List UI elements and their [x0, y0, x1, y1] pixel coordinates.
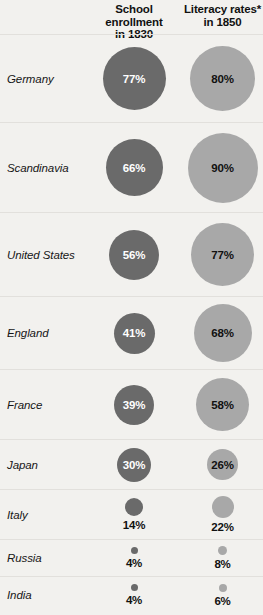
cell-enroll: 41%: [86, 297, 182, 369]
cell-lit: 6%: [182, 577, 263, 613]
bubble-value: 41%: [123, 327, 145, 339]
cell-lit: 26%: [182, 440, 263, 489]
bubble-value: 8%: [214, 558, 230, 570]
bubble-value: 22%: [211, 521, 233, 533]
cell-enroll: 14%: [86, 490, 182, 539]
bubble-enroll[interactable]: 77%: [103, 47, 166, 110]
row-label-russia: Russia: [0, 552, 86, 564]
cell-lit: 90%: [182, 123, 263, 212]
bubble-lit[interactable]: 26%: [207, 449, 238, 480]
row-label-germany: Germany: [0, 73, 86, 85]
header-label-spacer: [0, 3, 86, 34]
row-label-england: England: [0, 327, 86, 339]
cell-enroll: 4%: [86, 577, 182, 613]
bubble-value: 68%: [211, 327, 233, 339]
bubble-lit[interactable]: [212, 496, 234, 518]
bubble-lit[interactable]: 80%: [190, 46, 255, 111]
bubble-enroll[interactable]: [131, 584, 138, 591]
bubble-lit[interactable]: 58%: [196, 378, 249, 431]
bubble-enroll[interactable]: 41%: [114, 313, 155, 354]
bubble-value: 90%: [211, 162, 233, 174]
bubble-enroll[interactable]: [125, 498, 143, 516]
row-label-scandinavia: Scandinavia: [0, 162, 86, 174]
bubble-value: 58%: [211, 399, 233, 411]
row-label-japan: Japan: [0, 459, 86, 471]
cell-enroll: 77%: [86, 35, 182, 122]
bubble-chart: School enrollment in 1830 Literacy rates…: [0, 0, 263, 615]
bubble-value: 26%: [211, 459, 233, 471]
bubble-lit[interactable]: 68%: [194, 304, 252, 362]
chart-header: School enrollment in 1830 Literacy rates…: [0, 0, 263, 34]
chart-row: Italy14%22%: [0, 489, 263, 539]
chart-row: India4%6%: [0, 576, 263, 613]
bubble-value: 14%: [123, 519, 145, 531]
bubble-value: 56%: [123, 249, 145, 261]
column-header-literacy: Literacy rates* in 1850: [182, 3, 263, 34]
bubble-enroll[interactable]: [131, 547, 138, 554]
bubble-lit[interactable]: [218, 546, 227, 555]
bubble-value: 77%: [123, 73, 145, 85]
bubble-enroll[interactable]: 56%: [109, 230, 159, 280]
bubble-value: 80%: [211, 73, 233, 85]
column-header-literacy-line2: in 1850: [182, 16, 263, 29]
bubble-value: 6%: [214, 595, 230, 607]
bubble-lit[interactable]: 90%: [188, 133, 258, 203]
cell-enroll: 56%: [86, 213, 182, 296]
column-header-literacy-line1: Literacy rates*: [184, 3, 261, 15]
bubble-enroll[interactable]: 39%: [114, 385, 154, 425]
chart-row: Germany77%80%: [0, 34, 263, 122]
cell-lit: 58%: [182, 370, 263, 439]
cell-lit: 77%: [182, 213, 263, 296]
cell-lit: 22%: [182, 490, 263, 539]
chart-row: Russia4%8%: [0, 539, 263, 576]
cell-enroll: 4%: [86, 540, 182, 576]
bubble-lit[interactable]: 77%: [191, 223, 254, 286]
row-label-italy: Italy: [0, 509, 86, 521]
cell-enroll: 39%: [86, 370, 182, 439]
chart-row: France39%58%: [0, 369, 263, 439]
cell-enroll: 30%: [86, 440, 182, 489]
bubble-value: 77%: [211, 249, 233, 261]
bubble-value: 4%: [126, 594, 142, 606]
bubble-enroll[interactable]: 66%: [106, 139, 163, 196]
bubble-value: 30%: [123, 459, 145, 471]
chart-row: Scandinavia66%90%: [0, 122, 263, 212]
chart-row: United States56%77%: [0, 212, 263, 296]
bubble-value: 39%: [123, 399, 145, 411]
bubble-value: 4%: [126, 557, 142, 569]
cell-lit: 80%: [182, 35, 263, 122]
bubble-value: 66%: [123, 162, 145, 174]
column-header-enrollment-line1: School enrollment: [105, 3, 162, 28]
row-label-india: India: [0, 589, 86, 601]
bubble-lit[interactable]: [219, 584, 227, 592]
cell-lit: 68%: [182, 297, 263, 369]
bubble-enroll[interactable]: 30%: [117, 448, 151, 482]
cell-lit: 8%: [182, 540, 263, 576]
chart-row: Japan30%26%: [0, 439, 263, 489]
chart-rows: Germany77%80%Scandinavia66%90%United Sta…: [0, 34, 263, 613]
cell-enroll: 66%: [86, 123, 182, 212]
chart-row: England41%68%: [0, 296, 263, 369]
row-label-france: France: [0, 399, 86, 411]
column-header-enrollment: School enrollment in 1830: [86, 3, 182, 34]
row-label-united-states: United States: [0, 249, 86, 261]
